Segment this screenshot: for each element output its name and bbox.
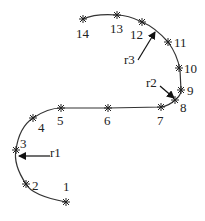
- point-label: 2: [32, 178, 39, 193]
- point-marker: 6: [104, 104, 112, 128]
- point-marker: 8: [171, 96, 187, 115]
- point-marker: 5: [57, 104, 65, 128]
- radius-label: r1: [50, 145, 61, 160]
- point-label: 11: [174, 35, 187, 50]
- radius-label: r2: [146, 75, 157, 90]
- point-marker: 14: [76, 15, 90, 41]
- trajectory-curve: [15, 15, 181, 202]
- point-marker: 1: [62, 179, 70, 206]
- point-label: 14: [76, 26, 90, 41]
- point-label: 7: [157, 113, 164, 128]
- point-label: 13: [110, 21, 123, 36]
- point-label: 4: [38, 120, 45, 135]
- path-diagram: 1234567891011121314 r1r2r3: [0, 0, 205, 221]
- point-marker: 11: [164, 35, 187, 50]
- point-marker: 3: [12, 136, 27, 154]
- point-label: 6: [104, 113, 111, 128]
- radius-label: r3: [124, 52, 135, 67]
- point-marker: 12: [130, 18, 146, 42]
- point-label: 10: [184, 61, 197, 76]
- point-marker: 7: [157, 103, 165, 128]
- point-label: 3: [20, 136, 27, 151]
- point-label: 9: [187, 83, 194, 98]
- point-marker: 4: [29, 114, 45, 135]
- point-label: 5: [57, 113, 64, 128]
- arrow-icon: [160, 86, 174, 98]
- point-label: 12: [130, 27, 143, 42]
- point-marker: 2: [22, 178, 39, 193]
- point-label: 1: [63, 179, 70, 194]
- point-label: 8: [180, 100, 187, 115]
